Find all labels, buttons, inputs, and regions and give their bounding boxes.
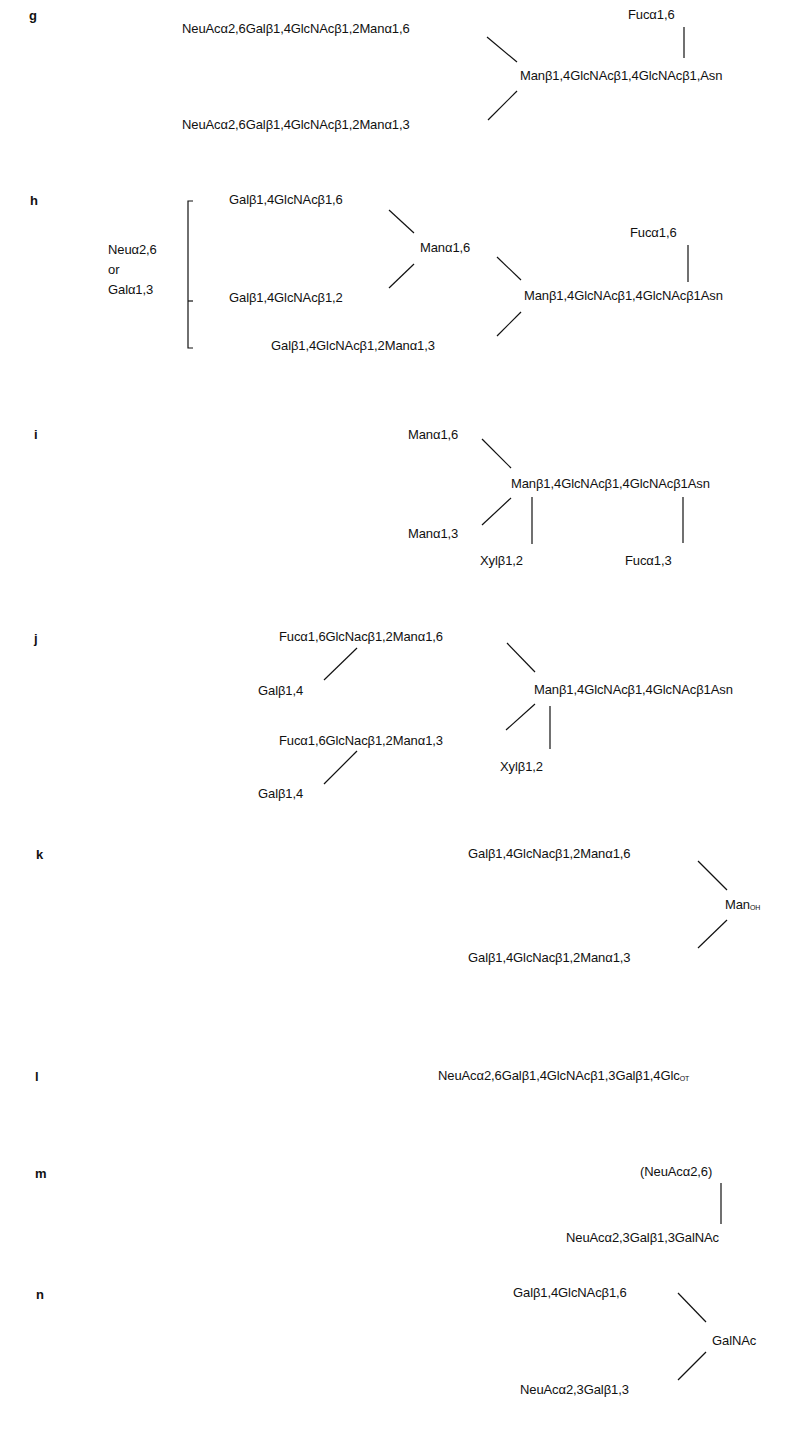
glycosidic-bond-lines bbox=[0, 0, 809, 1431]
branch-top-i: Manα1,6 bbox=[408, 427, 458, 443]
antenna-3-h: Galβ1,4GlcNAcβ1,2Manα1,3 bbox=[271, 338, 435, 354]
fucose-substituent-h: Fucα1,6 bbox=[630, 225, 677, 241]
branch-top-k: Galβ1,4GlcNacβ1,2Manα1,6 bbox=[468, 846, 630, 862]
fucose-substituent-g: Fucα1,6 bbox=[628, 7, 675, 23]
branch-top-galactose-j: Galβ1,4 bbox=[258, 683, 303, 699]
core-chain-h: Manβ1,4GlcNAcβ1,4GlcNAcβ1Asn bbox=[524, 288, 723, 304]
structure-label-k: k bbox=[36, 847, 43, 863]
bracket-note-line2-h: or bbox=[108, 262, 119, 278]
core-chain-j: Manβ1,4GlcNAcβ1,4GlcNAcβ1Asn bbox=[534, 682, 733, 698]
xylose-substituent-j: Xylβ1,2 bbox=[500, 759, 543, 775]
structure-label-m: m bbox=[35, 1166, 47, 1182]
substituent-m: (NeuAcα2,6) bbox=[640, 1164, 712, 1180]
branch-bottom-galactose-j: Galβ1,4 bbox=[258, 786, 303, 802]
core-main-k: Man bbox=[725, 897, 750, 912]
structure-label-i: i bbox=[34, 427, 38, 443]
branch-bottom-k: Galβ1,4GlcNacβ1,2Manα1,3 bbox=[468, 950, 630, 966]
xylose-substituent-i: Xylβ1,2 bbox=[480, 553, 523, 569]
branch-bottom-n: NeuAcα2,3Galβ1,3 bbox=[520, 1382, 629, 1398]
chain-l: NeuAcα2,6Galβ1,4GlcNAcβ1,3Galβ1,4GlcOT bbox=[438, 1068, 689, 1086]
branch-top-n: Galβ1,4GlcNAcβ1,6 bbox=[513, 1285, 627, 1301]
structure-label-l: l bbox=[35, 1069, 39, 1085]
structure-label-g: g bbox=[29, 8, 37, 24]
core-chain-g: Manβ1,4GlcNAcβ1,4GlcNAcβ1,Asn bbox=[520, 68, 722, 84]
chain-m: NeuAcα2,3Galβ1,3GalNAc bbox=[566, 1230, 719, 1246]
core-n: GalNAc bbox=[712, 1333, 756, 1349]
structure-label-j: j bbox=[34, 631, 38, 647]
bracket-note-line1-h: Neuα2,6 bbox=[108, 242, 157, 258]
branch-bottom-j: Fucα1,6GlcNacβ1,2Manα1,3 bbox=[279, 733, 443, 749]
structure-label-h: h bbox=[30, 193, 38, 209]
core-chain-i: Manβ1,4GlcNAcβ1,4GlcNAcβ1Asn bbox=[511, 476, 710, 492]
chain-subscript-l: OT bbox=[680, 1075, 690, 1082]
fucose-substituent-i: Fucα1,3 bbox=[625, 553, 672, 569]
antenna-2-h: Galβ1,4GlcNAcβ1,2 bbox=[229, 290, 343, 306]
core-subscript-k: OH bbox=[750, 904, 760, 911]
branch-top-g: NeuAcα2,6Galβ1,4GlcNAcβ1,2Manα1,6 bbox=[182, 21, 410, 37]
mid-branch-h: Manα1,6 bbox=[420, 240, 470, 256]
branch-bottom-i: Manα1,3 bbox=[408, 526, 458, 542]
antenna-1-h: Galβ1,4GlcNAcβ1,6 bbox=[229, 192, 343, 208]
branch-top-j: Fucα1,6GlcNacβ1,2Manα1,6 bbox=[279, 629, 443, 645]
structure-label-n: n bbox=[36, 1287, 44, 1303]
branch-bottom-g: NeuAcα2,6Galβ1,4GlcNAcβ1,2Manα1,3 bbox=[182, 117, 410, 133]
reducing-end-k: ManOH bbox=[725, 897, 760, 915]
bracket-note-line3-h: Galα1,3 bbox=[108, 282, 153, 298]
chain-main-l: NeuAcα2,6Galβ1,4GlcNAcβ1,3Galβ1,4Glc bbox=[438, 1068, 680, 1083]
